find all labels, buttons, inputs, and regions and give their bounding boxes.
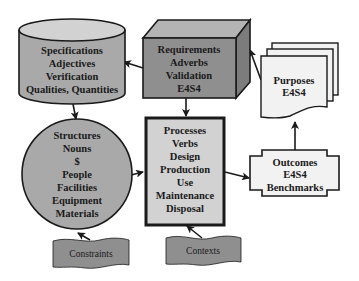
structures-line-7: Materials (55, 208, 98, 219)
edge-processes-to-outcomes (225, 172, 249, 178)
processes-line-2: Verbs (172, 138, 198, 149)
purposes-line-1: Purposes (274, 75, 315, 86)
specifications-line-4: Qualities, Quantities (26, 84, 118, 95)
edge-constraints-to-structures (78, 233, 90, 240)
node-structures: Structures Nouns $ People Facilities Equ… (22, 119, 132, 229)
diagram-canvas: Specifications Adjectives Verification Q… (0, 0, 359, 281)
node-processes: Processes Verbs Design Production Use Ma… (146, 118, 224, 225)
structures-line-4: People (62, 169, 92, 180)
outcomes-line-2: E4S4 (283, 169, 307, 180)
node-contexts: Contexts (166, 236, 241, 265)
edge-specifications-to-structures (73, 104, 76, 119)
node-outcomes: Outcomes E4S4 Benchmarks (250, 150, 339, 196)
requirements-line-1: Requirements (158, 44, 221, 55)
processes-line-6: Maintenance (156, 190, 215, 201)
requirements-line-4: E4S4 (177, 83, 201, 94)
requirements-line-3: Validation (166, 70, 212, 81)
node-purposes: Purposes E4S4 (261, 43, 338, 118)
specifications-line-3: Verification (46, 71, 99, 82)
edge-structures-to-processes (131, 172, 143, 175)
processes-line-5: Use (177, 177, 194, 188)
processes-line-3: Design (170, 151, 200, 162)
processes-line-4: Production (160, 164, 210, 175)
processes-line-7: Disposal (166, 203, 204, 214)
specifications-line-1: Specifications (41, 45, 103, 56)
purposes-line-2: E4S4 (282, 87, 306, 98)
structures-line-2: Nouns (63, 143, 92, 154)
outcomes-line-1: Outcomes (273, 157, 318, 168)
requirements-line-2: Adverbs (170, 57, 208, 68)
edge-purposes-to-requirements (250, 50, 261, 80)
outcomes-line-3: Benchmarks (267, 182, 324, 193)
structures-line-1: Structures (53, 130, 100, 141)
edge-requirements-to-specifications (124, 62, 143, 68)
structures-line-5: Facilities (57, 182, 97, 193)
node-specifications: Specifications Adjectives Verification Q… (19, 19, 125, 104)
structures-line-3: $ (74, 156, 79, 167)
structures-line-6: Equipment (52, 195, 103, 206)
processes-line-1: Processes (164, 125, 206, 136)
node-constraints: Constraints (53, 238, 129, 268)
contexts-label: Contexts (186, 246, 220, 256)
constraints-label: Constraints (69, 249, 113, 259)
node-requirements: Requirements Adverbs Validation E4S4 (143, 20, 250, 98)
edge-contexts-to-processes (187, 226, 202, 238)
specifications-line-2: Adjectives (49, 58, 96, 69)
